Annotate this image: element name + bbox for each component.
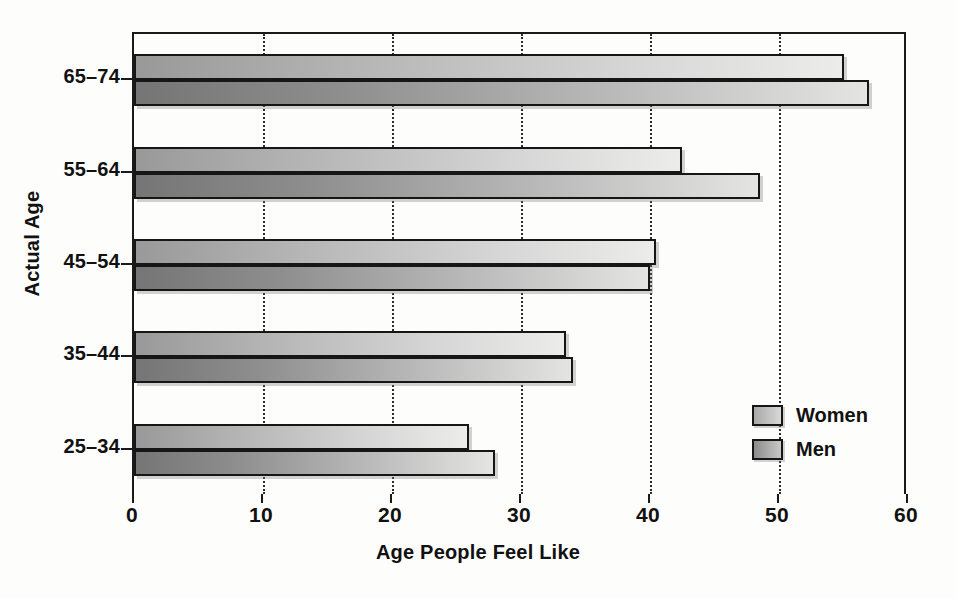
bar-group-45-54 (134, 239, 908, 291)
x-tick-10 (261, 494, 263, 503)
bar-women-65-74 (134, 54, 844, 80)
legend-swatch-women-icon (752, 405, 783, 426)
x-tick-label-20: 20 (360, 503, 420, 527)
bar-chart: 0102030405060 25–3435–4445–5455–6465–74 … (0, 0, 956, 598)
x-tick-label-60: 60 (876, 503, 936, 527)
y-tick-65–74 (121, 78, 132, 80)
legend-item-men: Men (752, 432, 868, 466)
x-tick-label-30: 30 (489, 503, 549, 527)
x-tick-20 (390, 494, 392, 503)
bar-group-55-64 (134, 147, 908, 199)
x-tick-40 (648, 494, 650, 503)
x-tick-50 (777, 494, 779, 503)
legend: WomenMen (752, 398, 868, 466)
bar-men-25-34 (134, 450, 495, 476)
x-tick-label-0: 0 (102, 503, 162, 527)
x-axis-title: Age People Feel Like (0, 541, 956, 564)
legend-item-women: Women (752, 398, 868, 432)
x-tick-0 (132, 494, 134, 503)
x-tick-label-50: 50 (747, 503, 807, 527)
legend-label-men: Men (796, 438, 836, 461)
bar-men-35-44 (134, 357, 573, 383)
bar-group-65-74 (134, 54, 908, 106)
bar-women-35-44 (134, 331, 566, 357)
y-tick-35–44 (121, 355, 132, 357)
bar-women-25-34 (134, 424, 469, 450)
y-tick-55–64 (121, 171, 132, 173)
bar-group-35-44 (134, 331, 908, 383)
bar-women-45-54 (134, 239, 656, 265)
y-tick-label-25–34: 25–34 (10, 435, 120, 458)
x-tick-30 (519, 494, 521, 503)
x-tick-label-40: 40 (618, 503, 678, 527)
bar-men-65-74 (134, 80, 869, 106)
y-tick-45–54 (121, 263, 132, 265)
x-tick-60 (906, 494, 908, 503)
x-tick-label-10: 10 (231, 503, 291, 527)
y-tick-label-65–74: 65–74 (10, 65, 120, 88)
y-axis-title: Actual Age (21, 124, 44, 364)
legend-label-women: Women (796, 404, 868, 427)
bar-women-55-64 (134, 147, 682, 173)
y-tick-25–34 (121, 448, 132, 450)
bar-men-45-54 (134, 265, 650, 291)
bar-men-55-64 (134, 173, 760, 199)
legend-swatch-men-icon (752, 439, 783, 460)
